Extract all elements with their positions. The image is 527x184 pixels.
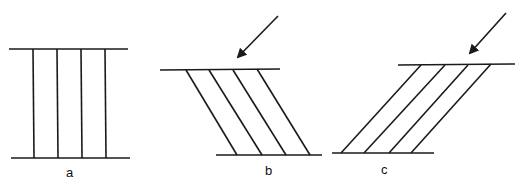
slanted-line [341, 65, 421, 153]
force-arrow-icon [470, 13, 506, 53]
vertical-line [105, 49, 106, 158]
slanted-line [364, 65, 445, 153]
panel-label-a: a [66, 165, 74, 180]
top-boundary-line [398, 64, 515, 65]
panel-label-b: b [265, 163, 272, 178]
diagram: a b c [0, 0, 527, 184]
top-boundary-line [160, 69, 280, 70]
slanted-line [233, 70, 286, 155]
panel-b: b [160, 16, 322, 178]
slanted-line [186, 70, 237, 155]
slanted-line [209, 70, 262, 155]
vertical-line [81, 49, 82, 158]
panel-c: c [332, 13, 515, 177]
slanted-line [257, 69, 310, 155]
slanted-line [411, 64, 491, 153]
vertical-line [57, 49, 58, 158]
vertical-line [33, 49, 34, 158]
slanted-line [389, 65, 468, 153]
panel-label-c: c [381, 162, 388, 177]
panel-a: a [9, 49, 130, 180]
force-arrow-icon [238, 16, 278, 57]
